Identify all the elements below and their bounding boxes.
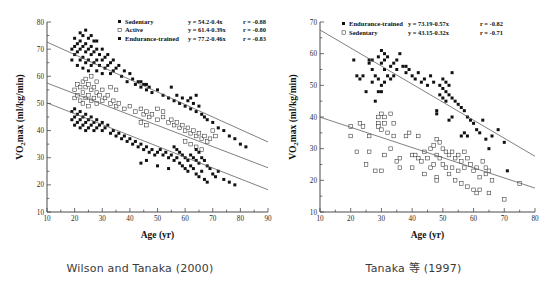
x-tick-label: 60 xyxy=(182,215,190,223)
data-point xyxy=(491,135,494,138)
data-point xyxy=(389,65,392,68)
data-point xyxy=(423,172,427,176)
data-point xyxy=(81,67,84,70)
x-tick-label: 20 xyxy=(71,215,79,223)
data-point xyxy=(195,110,198,113)
data-point xyxy=(109,85,113,89)
data-point xyxy=(192,129,196,133)
y-axis-title: VO2max (ml/kg/min) xyxy=(15,74,27,159)
data-point xyxy=(81,45,84,48)
data-point xyxy=(460,106,463,109)
legend-marker xyxy=(118,20,121,23)
data-point xyxy=(156,88,159,91)
data-point xyxy=(420,81,423,84)
data-point xyxy=(506,169,509,172)
data-point xyxy=(123,135,126,138)
data-point xyxy=(148,151,151,154)
data-point xyxy=(377,55,380,58)
data-point xyxy=(380,90,383,93)
data-point xyxy=(73,45,76,48)
figure-root: 1020304050607080901020304050607080Age (y… xyxy=(0,0,547,289)
data-point xyxy=(389,112,393,116)
y-tick-label: 50 xyxy=(37,100,45,108)
data-point xyxy=(95,69,98,72)
data-point xyxy=(459,182,463,186)
legend-label: Endurance-trained xyxy=(125,35,179,42)
data-point xyxy=(84,61,87,64)
data-point xyxy=(156,164,159,167)
data-point xyxy=(164,151,167,154)
data-point xyxy=(444,90,447,93)
data-point xyxy=(450,166,454,170)
data-point xyxy=(392,74,395,77)
data-point xyxy=(441,87,444,90)
data-point xyxy=(167,167,170,170)
data-point xyxy=(456,169,460,173)
data-point xyxy=(175,121,179,125)
data-point xyxy=(380,49,383,52)
y-tick-label: 60 xyxy=(37,73,45,81)
data-point xyxy=(367,150,371,154)
data-point xyxy=(484,138,487,141)
data-point xyxy=(463,166,467,170)
legend-label: Active xyxy=(125,26,143,33)
data-point xyxy=(189,142,193,146)
data-point xyxy=(189,164,192,167)
data-point xyxy=(101,59,104,62)
data-point xyxy=(79,40,82,43)
data-point xyxy=(70,118,73,121)
data-point xyxy=(128,137,131,140)
data-point xyxy=(84,121,87,124)
regression-line-sedentary xyxy=(47,103,268,190)
regression-line-active xyxy=(47,83,268,168)
data-point xyxy=(79,48,82,51)
data-point xyxy=(361,125,365,129)
data-point xyxy=(186,170,189,173)
data-point xyxy=(106,64,109,67)
data-point xyxy=(392,134,396,138)
data-point xyxy=(92,96,96,100)
x-tick-label: 10 xyxy=(316,215,324,223)
data-point xyxy=(502,198,506,202)
data-point xyxy=(134,140,137,143)
data-point xyxy=(444,166,448,170)
data-point xyxy=(175,156,178,159)
data-point xyxy=(386,131,390,135)
data-point xyxy=(156,107,160,111)
data-point xyxy=(98,53,101,56)
data-point xyxy=(469,163,473,167)
data-point xyxy=(365,90,368,93)
data-point xyxy=(383,115,387,119)
data-point xyxy=(139,107,143,111)
data-point xyxy=(460,135,463,138)
data-point xyxy=(466,135,469,138)
y-tick-label: 60 xyxy=(310,50,318,58)
legend-label: Endurance-trained xyxy=(349,20,403,27)
data-point xyxy=(79,31,82,34)
data-point xyxy=(355,150,359,154)
data-point xyxy=(478,175,482,179)
data-point xyxy=(197,105,200,108)
svg-text:VO2max (ml/kg/min): VO2max (ml/kg/min) xyxy=(15,74,27,159)
data-point xyxy=(79,126,82,129)
y-axis-title: VO2max (ml/kg/min) xyxy=(288,74,300,159)
data-point xyxy=(78,85,82,89)
data-point xyxy=(159,148,162,151)
data-point xyxy=(81,102,85,106)
data-point xyxy=(115,135,118,138)
data-point xyxy=(145,110,149,114)
data-point xyxy=(134,110,138,114)
data-point xyxy=(447,172,451,176)
data-point xyxy=(112,99,116,103)
data-point xyxy=(181,164,184,167)
legend-marker xyxy=(342,31,345,34)
data-point xyxy=(87,37,90,40)
series-sedentary xyxy=(70,107,236,186)
data-point xyxy=(150,112,154,116)
data-point xyxy=(150,91,153,94)
data-point xyxy=(90,34,93,37)
data-point xyxy=(481,119,484,122)
x-tick-label: 40 xyxy=(409,215,417,223)
data-point xyxy=(106,53,109,56)
x-tick-label: 30 xyxy=(378,215,386,223)
